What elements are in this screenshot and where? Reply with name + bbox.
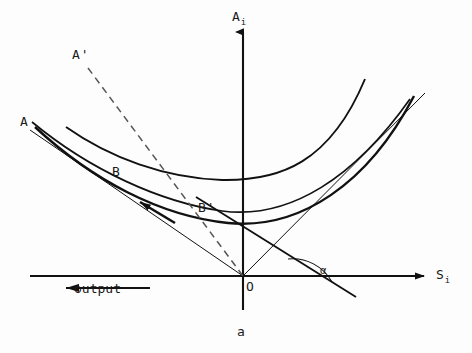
output-label: output [74, 282, 121, 295]
figure-caption: a [237, 325, 245, 338]
angle-label-alpha: α [320, 265, 327, 276]
y-axis-label-base: A [232, 9, 240, 24]
x-axis-label-base: S [436, 267, 444, 282]
origin-label: O [246, 280, 254, 293]
y-axis-label-subscript: i [241, 17, 246, 27]
point-label-A-prime: A' [72, 48, 90, 61]
ray-origin-upper-right [243, 93, 425, 276]
x-axis-label-subscript: i [445, 275, 450, 285]
diagram-canvas [0, 0, 472, 353]
point-label-A: A [20, 115, 28, 128]
point-label-B: B [112, 165, 120, 178]
figure-container: Ai Si O output α A A' B B' a [0, 0, 472, 353]
y-axis-label: Ai [232, 10, 245, 23]
point-label-B-prime: B' [198, 201, 216, 214]
curve-middle-isoquant [32, 99, 410, 212]
curve-upper-isoquant [66, 79, 365, 180]
x-axis-label: Si [436, 268, 449, 281]
